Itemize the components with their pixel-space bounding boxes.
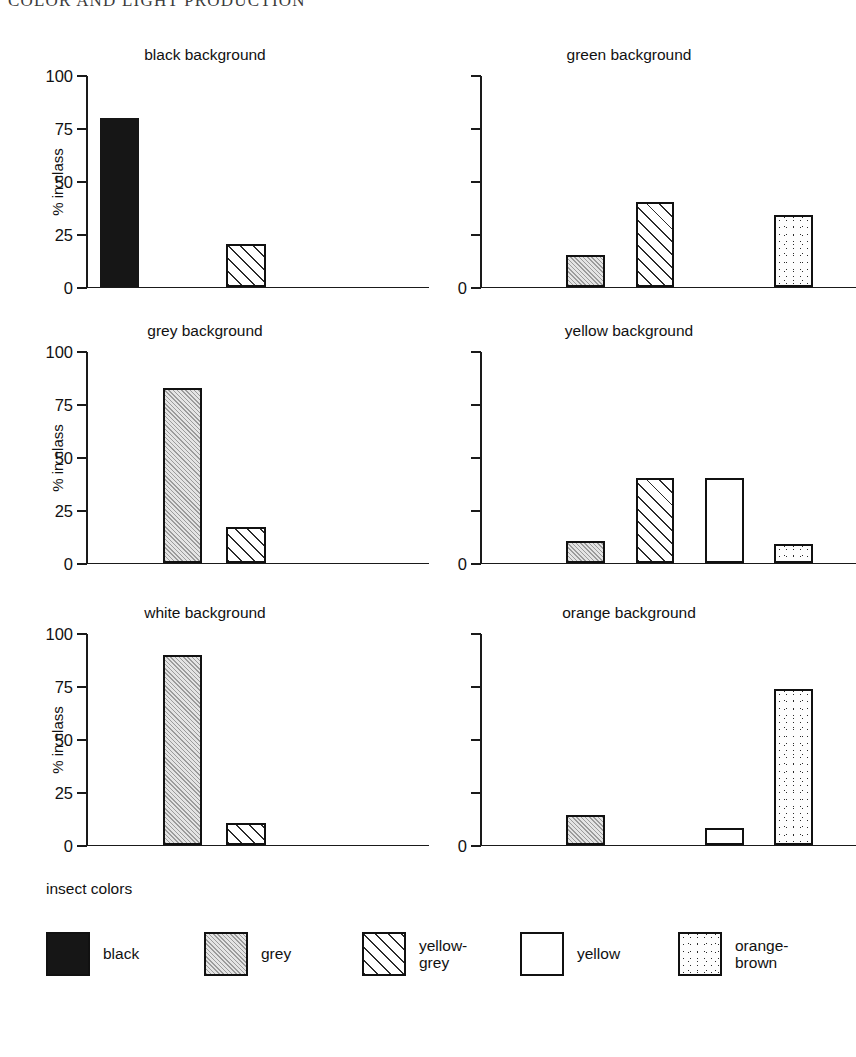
bar-yellow-grey — [636, 478, 675, 562]
y-axis-tick-label: 100 — [45, 344, 73, 361]
chart-panel-grid: black background0255075100% in classgree… — [0, 46, 848, 876]
legend-swatch-yellow-grey — [362, 932, 406, 976]
y-axis-tick — [471, 686, 481, 689]
running-head: COLOR AND LIGHT PRODUCTION — [8, 0, 306, 11]
y-axis-tick — [77, 845, 87, 848]
legend-swatch-yellow — [520, 932, 564, 976]
plot-area: 0 — [480, 76, 828, 288]
y-axis-tick — [77, 686, 87, 689]
bar-group — [482, 352, 828, 563]
y-axis-tick-label: 0 — [64, 280, 73, 297]
legend-label: yellow- grey — [419, 937, 467, 972]
y-axis-tick — [471, 351, 481, 354]
bar-group — [482, 76, 828, 287]
y-axis-tick — [471, 845, 481, 848]
bar-slot — [759, 634, 828, 845]
plot-area: 0255075100% in class — [86, 352, 404, 564]
bar-grey — [566, 815, 605, 844]
y-axis-tick-label: 75 — [55, 397, 73, 414]
legend-label: grey — [261, 945, 291, 962]
bar-slot — [759, 76, 828, 287]
bar-slot — [620, 634, 689, 845]
y-axis-tick — [471, 792, 481, 795]
bar-slot — [214, 634, 277, 845]
bar-yellow-grey — [226, 527, 265, 563]
legend-item: grey — [204, 932, 362, 976]
legend-item: black — [46, 932, 204, 976]
y-axis-tick — [77, 792, 87, 795]
y-axis-tick-label: 25 — [55, 227, 73, 244]
legend-item: orange- brown — [678, 932, 836, 976]
bar-slot — [551, 634, 620, 845]
bar-grey — [163, 388, 202, 563]
x-axis-line — [480, 563, 856, 565]
y-axis-label: % in class — [49, 148, 66, 216]
y-axis-tick — [471, 633, 481, 636]
bar-slot — [278, 634, 341, 845]
y-axis-tick — [77, 128, 87, 131]
y-axis-tick — [471, 75, 481, 78]
bar-grey — [163, 655, 202, 844]
y-axis-tick — [471, 563, 481, 566]
bar-slot — [88, 634, 151, 845]
bar-yellow-grey — [226, 823, 265, 844]
bar-group — [482, 634, 828, 845]
bar-slot — [341, 352, 404, 563]
y-axis-label: % in class — [49, 424, 66, 492]
y-axis-tick — [471, 510, 481, 513]
legend-swatch-black — [46, 932, 90, 976]
y-axis-tick-label: 0 — [64, 556, 73, 573]
y-axis-tick — [77, 287, 87, 290]
bar-yellow-grey — [226, 244, 265, 286]
plot-area: 0255075100% in class — [86, 76, 404, 288]
bar-group — [88, 634, 404, 845]
bar-slot — [620, 352, 689, 563]
bar-slot — [482, 634, 551, 845]
y-axis-tick — [77, 404, 87, 407]
bar-slot — [278, 352, 341, 563]
y-axis-tick-label: 100 — [45, 68, 73, 85]
bar-orange-brown — [774, 544, 813, 563]
bar-slot — [551, 352, 620, 563]
y-axis-label: % in class — [49, 706, 66, 774]
legend-label: orange- brown — [735, 937, 788, 972]
legend-items: blackgreyyellow- greyyelloworange- brown — [46, 932, 836, 976]
legend-label: black — [103, 945, 139, 962]
x-axis-line — [86, 287, 429, 289]
y-axis-tick — [77, 457, 87, 460]
y-axis-tick-label: 75 — [55, 121, 73, 138]
chart-panel: grey background0255075100% in class — [0, 322, 424, 604]
bar-slot — [88, 76, 151, 287]
bar-slot — [690, 352, 759, 563]
y-axis-tick — [77, 234, 87, 237]
bar-slot — [690, 634, 759, 845]
bar-orange-brown — [774, 689, 813, 845]
bar-slot — [151, 352, 214, 563]
bar-slot — [151, 76, 214, 287]
bar-slot — [482, 352, 551, 563]
y-axis-tick — [77, 181, 87, 184]
y-axis-tick-label: 0 — [458, 280, 467, 297]
bar-grey — [566, 541, 605, 562]
bar-slot — [482, 76, 551, 287]
x-axis-line — [86, 845, 429, 847]
y-axis-tick — [471, 457, 481, 460]
bar-slot — [551, 76, 620, 287]
chart-panel: orange background0 — [424, 604, 848, 876]
bar-yellow — [705, 828, 744, 845]
y-axis-tick-label: 0 — [64, 838, 73, 855]
y-axis-tick — [77, 510, 87, 513]
y-axis-tick — [77, 633, 87, 636]
bar-yellow — [705, 478, 744, 562]
y-axis-tick — [471, 128, 481, 131]
bar-slot — [341, 634, 404, 845]
legend-label: yellow — [577, 945, 620, 962]
y-axis-tick — [77, 75, 87, 78]
panel-title: orange background — [424, 604, 834, 622]
y-axis-tick — [471, 181, 481, 184]
panel-title: yellow background — [424, 322, 834, 340]
y-axis-tick — [77, 563, 87, 566]
bar-yellow-grey — [636, 202, 675, 286]
y-axis-tick — [77, 351, 87, 354]
bar-black — [100, 118, 139, 286]
